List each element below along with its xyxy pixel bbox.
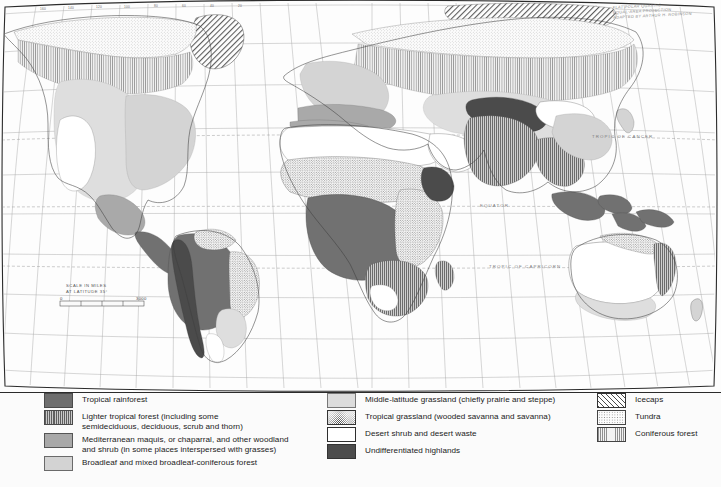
- svg-text:140: 140: [68, 6, 74, 10]
- legend-swatch-tropical-grassland: [327, 410, 356, 425]
- legend-item-tropical-grassland[interactable]: Tropical grassland (wooded savanna and s…: [327, 410, 597, 425]
- legend-item-undifferentiated-highlands[interactable]: Undifferentiated highlands: [327, 444, 597, 459]
- label-tropic-of-cancer: TROPIC OF CANCER: [592, 134, 653, 139]
- legend-swatch-lighter-tropical-forest: [44, 410, 73, 425]
- legend-swatch-mediterranean-maquis: [44, 433, 73, 448]
- legend-item-lighter-tropical-forest[interactable]: Lighter tropical forest (including some …: [44, 410, 344, 431]
- svg-text:20: 20: [238, 4, 242, 8]
- legend-item-tundra[interactable]: Tundra: [597, 410, 721, 425]
- legend-item-broadleaf-mixed-forest[interactable]: Broadleaf and mixed broadleaf-coniferous…: [44, 456, 344, 471]
- legend-swatch-tundra: [597, 410, 626, 425]
- svg-text:60: 60: [182, 4, 186, 8]
- legend-label-desert-shrub-and-waste: Desert shrub and desert waste: [365, 427, 477, 439]
- legend-item-coniferous-forest[interactable]: Coniferous forest: [597, 427, 721, 442]
- legend-swatch-desert-shrub-and-waste: [327, 427, 356, 442]
- legend-label-undifferentiated-highlands: Undifferentiated highlands: [365, 444, 460, 456]
- vegetation-map-page: 160 140 120 100 80 60 40 20 TROPIC OF CA…: [0, 0, 721, 487]
- legend-swatch-undifferentiated-highlands: [327, 444, 356, 459]
- svg-text:100: 100: [124, 5, 130, 9]
- legend-swatch-coniferous-forest: [597, 427, 626, 442]
- world-map: 160 140 120 100 80 60 40 20 TROPIC OF CA…: [0, 0, 721, 392]
- legend-label-lighter-tropical-forest: Lighter tropical forest (including some …: [82, 410, 243, 431]
- svg-text:120: 120: [96, 5, 102, 9]
- svg-text:80: 80: [154, 4, 158, 8]
- legend-label-tropical-rainforest: Tropical rainforest: [82, 393, 147, 405]
- legend-label-tundra: Tundra: [635, 410, 661, 422]
- legend-swatch-middle-latitude-grassland: [327, 393, 356, 408]
- legend-label-broadleaf-mixed-forest: Broadleaf and mixed broadleaf-coniferous…: [82, 456, 257, 468]
- legend-swatch-broadleaf-mixed-forest: [44, 456, 73, 471]
- legend-column-2: Middle-latitude grassland (chiefly prair…: [327, 393, 597, 461]
- legend-item-desert-shrub-and-waste[interactable]: Desert shrub and desert waste: [327, 427, 597, 442]
- legend-item-icecaps[interactable]: Icecaps: [597, 393, 721, 408]
- svg-text:3000: 3000: [136, 296, 147, 301]
- legend-swatch-icecaps: [597, 393, 626, 408]
- map-legend: Tropical rainforestLighter tropical fore…: [0, 392, 721, 487]
- legend-item-middle-latitude-grassland[interactable]: Middle-latitude grassland (chiefly prair…: [327, 393, 597, 408]
- label-equator: EQUATOR: [480, 203, 509, 208]
- legend-label-coniferous-forest: Coniferous forest: [635, 427, 697, 439]
- svg-text:SCALE IN MILES: SCALE IN MILES: [66, 283, 107, 288]
- legend-label-tropical-grassland: Tropical grassland (wooded savanna and s…: [365, 410, 551, 422]
- legend-column-1: Tropical rainforestLighter tropical fore…: [44, 393, 344, 473]
- map-canvas: 160 140 120 100 80 60 40 20 TROPIC OF CA…: [0, 0, 721, 392]
- legend-item-tropical-rainforest[interactable]: Tropical rainforest: [44, 393, 344, 408]
- legend-column-3: IcecapsTundraConiferous forest: [597, 393, 721, 444]
- label-tropic-of-capricorn: TROPIC OF CAPRICORN: [489, 264, 561, 269]
- legend-label-middle-latitude-grassland: Middle-latitude grassland (chiefly prair…: [365, 393, 555, 405]
- legend-label-icecaps: Icecaps: [635, 393, 663, 405]
- legend-item-mediterranean-maquis[interactable]: Mediterranean maquis, or chaparral, and …: [44, 433, 344, 454]
- legend-label-mediterranean-maquis: Mediterranean maquis, or chaparral, and …: [82, 433, 289, 454]
- svg-text:160: 160: [40, 7, 46, 11]
- svg-text:AT LATITUDE 35°: AT LATITUDE 35°: [66, 289, 108, 294]
- legend-swatch-tropical-rainforest: [44, 393, 73, 408]
- svg-text:40: 40: [210, 4, 214, 8]
- svg-text:0: 0: [60, 296, 63, 301]
